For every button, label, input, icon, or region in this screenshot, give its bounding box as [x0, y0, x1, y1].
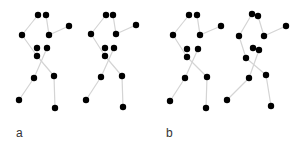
joint-hip_c	[102, 53, 108, 59]
bone-knee_r-foot_r	[54, 76, 55, 108]
joint-hip_l	[250, 45, 256, 51]
bone-knee_l-foot_l	[86, 77, 101, 100]
bone-knee_r-foot_r	[206, 77, 207, 108]
joint-hip_l	[34, 45, 40, 51]
bone-hip_c-knee_r	[105, 56, 122, 76]
figure-a1-joints	[16, 12, 72, 111]
pose-skeleton-diagram	[0, 0, 306, 149]
joint-head_l	[186, 12, 192, 18]
joint-hand_r	[218, 23, 224, 29]
joint-hip_r	[256, 47, 262, 53]
bone-elbow_l-hip_c	[239, 36, 246, 58]
bone-elbow_r-hand_r	[116, 25, 136, 34]
joint-foot_r	[268, 103, 274, 109]
bone-hip_r-knee_l	[34, 48, 47, 78]
joint-hip_l	[102, 45, 108, 51]
joint-foot_r	[52, 105, 58, 111]
joint-knee_r	[119, 73, 125, 79]
bone-elbow_l-hip_c	[91, 34, 105, 56]
joint-foot_l	[83, 97, 89, 103]
joint-head_r	[255, 13, 261, 19]
bone-elbow_r-hand_r	[200, 26, 221, 35]
joint-head_r	[110, 12, 116, 18]
joint-elbow_l	[19, 32, 25, 38]
bone-knee_l-foot_l	[227, 78, 249, 100]
joint-foot_r	[120, 104, 126, 110]
figure-a2-joints	[83, 12, 139, 110]
joint-elbow_r	[46, 32, 52, 38]
joint-hip_l	[184, 46, 190, 52]
joint-head_l	[103, 12, 109, 18]
joint-hand_r	[283, 23, 289, 29]
joint-knee_l	[31, 75, 37, 81]
joint-hand_r	[66, 23, 72, 29]
joint-hip_r	[111, 45, 117, 51]
joint-head_l	[35, 12, 41, 18]
joint-hip_c	[184, 54, 190, 60]
joint-knee_l	[98, 74, 104, 80]
bone-knee_r-foot_r	[266, 75, 271, 106]
joint-foot_l	[16, 97, 22, 103]
joint-hip_r	[195, 46, 201, 52]
figure-b2-bones	[227, 14, 286, 106]
joint-foot_r	[203, 105, 209, 111]
joint-head_l	[249, 11, 255, 17]
joint-elbow_r	[113, 31, 119, 37]
bone-elbow_l-hip_c	[173, 35, 187, 57]
bone-hip_r-knee_l	[185, 49, 198, 78]
joint-elbow_l	[170, 32, 176, 38]
bone-hip_r-knee_l	[249, 50, 259, 78]
joint-knee_r	[263, 72, 269, 78]
bone-knee_l-foot_l	[19, 78, 34, 100]
bone-hip_c-knee_r	[246, 58, 266, 75]
figure-b1-joints	[167, 12, 224, 111]
figure-b2-joints	[224, 11, 289, 109]
joint-head_r	[43, 12, 49, 18]
bone-knee_l-foot_l	[170, 78, 185, 101]
bone-elbow_r-hand_r	[49, 26, 69, 35]
bone-head_l-elbow_l	[173, 15, 189, 35]
joint-head_r	[194, 12, 200, 18]
bone-head_l-elbow_l	[239, 14, 252, 36]
joint-foot_l	[224, 97, 230, 103]
figure-b1-bones	[170, 15, 221, 108]
joint-elbow_r	[197, 32, 203, 38]
joint-knee_l	[182, 75, 188, 81]
figure-a2-bones	[86, 15, 136, 107]
joint-hip_r	[44, 45, 50, 51]
joint-foot_l	[167, 98, 173, 104]
bone-knee_r-foot_r	[122, 76, 123, 107]
joint-hand_r	[133, 22, 139, 28]
joint-elbow_r	[261, 33, 267, 39]
joint-knee_r	[204, 74, 210, 80]
figure-a1-bones	[19, 15, 69, 108]
joint-knee_r	[51, 73, 57, 79]
joint-hip_c	[34, 53, 40, 59]
bone-head_l-elbow_l	[22, 15, 38, 35]
bone-elbow_l-hip_c	[22, 35, 37, 56]
skeleton-joints	[16, 11, 289, 111]
joint-elbow_l	[88, 31, 94, 37]
bone-head_l-elbow_l	[91, 15, 106, 34]
joint-hip_c	[243, 55, 249, 61]
panel-label-b: b	[166, 127, 173, 139]
joint-elbow_l	[236, 33, 242, 39]
joint-knee_l	[246, 75, 252, 81]
panel-label-a: a	[16, 127, 23, 139]
bone-elbow_r-hand_r	[264, 26, 286, 36]
